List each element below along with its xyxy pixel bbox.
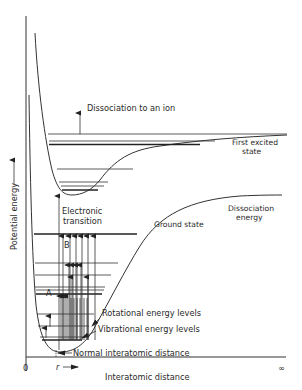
label-a: A xyxy=(46,288,52,298)
dissociation-energy-label-2: energy xyxy=(236,213,263,222)
excited-state-curve-group: First excited state xyxy=(35,33,287,195)
label-b: B xyxy=(64,240,70,250)
x-infinity-label: ∞ xyxy=(278,363,285,373)
excited-state-curve xyxy=(35,33,287,195)
excited-state-label-1: First excited xyxy=(232,138,278,147)
origin-label: 0 xyxy=(23,363,28,373)
potential-energy-diagram: Potential energy 0 ∞ r Interatomic dista… xyxy=(0,0,302,390)
dissociation-energy-label-1: Dissociation xyxy=(228,204,274,213)
excited-state-label-2: state xyxy=(242,147,262,156)
x-axis-label: Interatomic distance xyxy=(105,372,190,382)
dissociation-ion-label: Dissociation to an ion xyxy=(87,103,175,113)
transition-arrows: B A xyxy=(46,236,95,340)
electronic-transition-label-1: Electronic xyxy=(62,206,102,216)
normal-distance-label: Normal interatomic distance xyxy=(73,348,190,358)
r-label: r xyxy=(56,362,60,372)
electronic-transition-label-2: transition xyxy=(63,216,102,226)
level-annotations: Rotational energy levels Vibrational ene… xyxy=(56,308,201,358)
vibrational-levels-label: Vibrational energy levels xyxy=(98,324,200,334)
y-axis-label: Potential energy xyxy=(9,183,19,250)
rotational-levels-label: Rotational energy levels xyxy=(102,308,201,318)
dissociation-ion-annotation: Dissociation to an ion xyxy=(80,103,175,134)
ground-state-label: Ground state xyxy=(154,220,204,229)
